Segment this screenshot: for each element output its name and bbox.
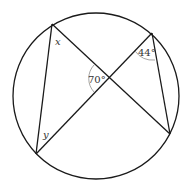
label-x: x — [55, 36, 61, 47]
label-angle-70: 70° — [88, 74, 106, 85]
label-y: y — [42, 129, 49, 140]
label-angle-44: 44° — [138, 47, 156, 58]
chord-top-left-to-bottom-right — [52, 24, 170, 134]
circle-diagram: x y 70° 44° — [0, 0, 190, 189]
circle — [13, 13, 179, 179]
chord-bottom-left-to-top-right — [36, 33, 152, 154]
